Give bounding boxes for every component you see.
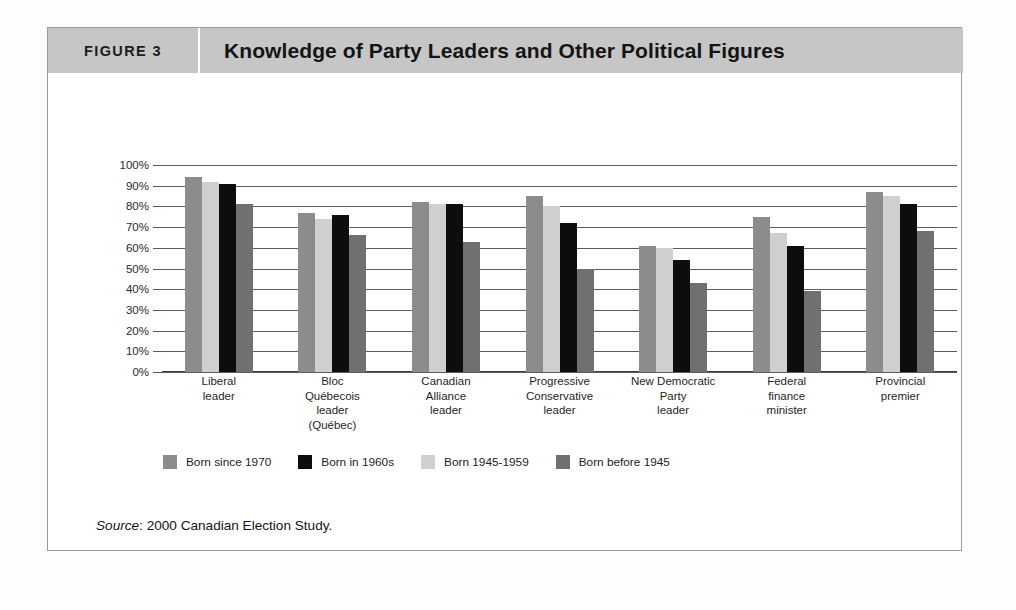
legend-item: Born 1945-1959 [421,455,529,469]
bar [866,192,883,372]
bar [463,242,480,372]
category-label: Federalfinanceminister [730,374,844,432]
legend-item: Born before 1945 [556,455,670,469]
bar [690,283,707,372]
y-axis-tick [153,186,162,187]
y-axis-label: 100% [120,159,149,171]
legend-item: Born in 1960s [298,455,394,469]
bar [185,177,202,372]
y-axis-tick [153,331,162,332]
figure-number-cell: FIGURE 3 [48,28,200,73]
figure-page: FIGURE 3 Knowledge of Party Leaders and … [0,0,1016,610]
legend-label: Born since 1970 [186,455,271,469]
chart-legend: Born since 1970Born in 1960sBorn 1945-19… [163,455,697,469]
bar [446,204,463,372]
bar [526,196,543,372]
bar-group [389,165,503,372]
y-axis-tick [153,227,162,228]
gridline [162,372,957,373]
y-axis-tick [153,269,162,270]
source-label: Source [96,518,139,533]
bar-group [843,165,957,372]
bar [656,248,673,372]
y-axis-label: 70% [126,221,149,233]
legend-label: Born 1945-1959 [444,455,529,469]
figure-number: FIGURE 3 [84,43,162,59]
source-text: : 2000 Canadian Election Study. [139,518,332,533]
source-note: Source: 2000 Canadian Election Study. [96,518,332,533]
plot-region: 0%10%20%30%40%50%60%70%80%90%100% [162,165,964,372]
y-axis-label: 40% [126,283,149,295]
y-axis-label: 20% [126,325,149,337]
bar [429,204,446,372]
bar [753,217,770,372]
bar-group [616,165,730,372]
category-label: New DemocraticPartyleader [616,374,730,432]
bar [236,204,253,372]
bar-groups [162,165,957,372]
bar [543,206,560,372]
y-axis-label: 50% [126,263,149,275]
legend-swatch [163,455,177,469]
y-axis-tick [153,372,162,373]
legend-swatch [556,455,570,469]
bar [412,202,429,372]
bar-group [503,165,617,372]
category-label: Provincialpremier [843,374,957,432]
y-axis-tick [153,310,162,311]
category-label: BlocQuébecoisleader(Québec) [276,374,390,432]
y-axis-tick [153,165,162,166]
y-axis-label: 90% [126,180,149,192]
category-label: Liberalleader [162,374,276,432]
bar [202,182,219,372]
bar [770,233,787,372]
figure-title: Knowledge of Party Leaders and Other Pol… [224,39,785,63]
legend-item: Born since 1970 [163,455,271,469]
figure-frame: FIGURE 3 Knowledge of Party Leaders and … [47,27,962,551]
bar-group [162,165,276,372]
figure-title-cell: Knowledge of Party Leaders and Other Pol… [200,28,963,73]
y-axis-tick [153,206,162,207]
y-axis-label: 30% [126,304,149,316]
bar [315,219,332,372]
bar [560,223,577,372]
category-label: CanadianAllianceleader [389,374,503,432]
bar [349,235,366,372]
figure-title-bar: FIGURE 3 Knowledge of Party Leaders and … [48,28,963,73]
y-axis-label: 60% [126,242,149,254]
bar [917,231,934,372]
legend-swatch [421,455,435,469]
y-axis-tick [153,248,162,249]
legend-swatch [298,455,312,469]
y-axis-label: 0% [132,366,149,378]
y-axis-tick [153,289,162,290]
bar-group [730,165,844,372]
chart-area: 0%10%20%30%40%50%60%70%80%90%100% Libera… [48,73,963,551]
category-labels: LiberalleaderBlocQuébecoisleader(Québec)… [162,374,957,432]
bar [673,260,690,372]
bar [883,196,900,372]
y-axis-label: 80% [126,200,149,212]
bar [900,204,917,372]
bar [577,269,594,373]
category-label: ProgressiveConservativeleader [503,374,617,432]
bar-group [276,165,390,372]
bar [219,184,236,372]
legend-label: Born before 1945 [579,455,670,469]
bar [298,213,315,372]
y-axis-tick [153,351,162,352]
y-axis-label: 10% [126,345,149,357]
bar [787,246,804,372]
bar [332,215,349,372]
legend-label: Born in 1960s [321,455,394,469]
bar [639,246,656,372]
bar [804,291,821,372]
